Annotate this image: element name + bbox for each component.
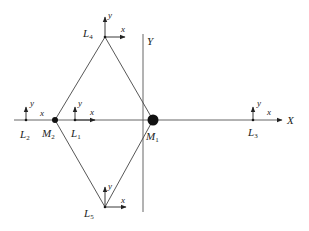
L2-y-label: y <box>29 98 34 108</box>
mass-M2-label: M2 <box>41 127 55 141</box>
mass-M2 <box>52 117 58 123</box>
point-L2-label: L2 <box>19 128 30 142</box>
mass-M1-label: M1 <box>145 130 159 144</box>
point-L1-label: L1 <box>70 127 81 141</box>
L3-y-label: y <box>256 98 261 108</box>
point-L5: y x L5 <box>83 181 126 221</box>
diagram-canvas: X Y M1 M2 y x L1 y x L2 <box>0 0 309 231</box>
point-L4: y x L4 <box>82 10 125 41</box>
L3-x-label: x <box>266 107 271 117</box>
L2-x-label: x <box>39 108 44 118</box>
L1-x-label: x <box>89 107 94 117</box>
L1-y-label: y <box>77 98 82 108</box>
mass-M1 <box>148 115 159 126</box>
point-L3: y x L3 <box>247 98 271 140</box>
L5-y-label: y <box>107 181 112 191</box>
point-L5-label: L5 <box>83 207 94 221</box>
point-L1: y x L1 <box>70 98 95 141</box>
L5-x-label: x <box>120 195 125 205</box>
y-axis-label: Y <box>147 35 155 47</box>
x-axis-label: X <box>286 114 295 126</box>
edge-L4-M1 <box>105 37 153 120</box>
L4-x-label: x <box>120 24 125 34</box>
point-L3-label: L3 <box>247 126 258 140</box>
L4-y-label: y <box>107 10 112 20</box>
point-L4-label: L4 <box>82 27 93 41</box>
lagrange-diagram: X Y M1 M2 y x L1 y x L2 <box>0 0 309 231</box>
